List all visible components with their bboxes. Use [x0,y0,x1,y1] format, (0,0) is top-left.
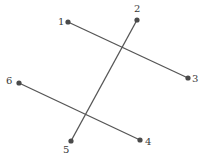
point-2 [134,17,139,22]
point-label-4: 4 [145,136,151,147]
point-label-1: 1 [58,16,64,27]
line-segments-diagram: 1 2 3 4 5 6 [0,0,203,158]
point-5 [68,138,73,143]
point-6 [16,80,21,85]
point-label-2: 2 [134,3,140,14]
labels-group: 1 2 3 4 5 6 [6,3,198,155]
point-label-5: 5 [63,144,69,155]
point-label-3: 3 [192,73,198,84]
point-1 [65,19,70,24]
point-3 [185,75,190,80]
segment-6-4 [19,83,140,140]
point-4 [137,137,142,142]
segment-1-3 [68,22,188,78]
segments-group [19,20,188,141]
point-label-6: 6 [6,75,12,86]
